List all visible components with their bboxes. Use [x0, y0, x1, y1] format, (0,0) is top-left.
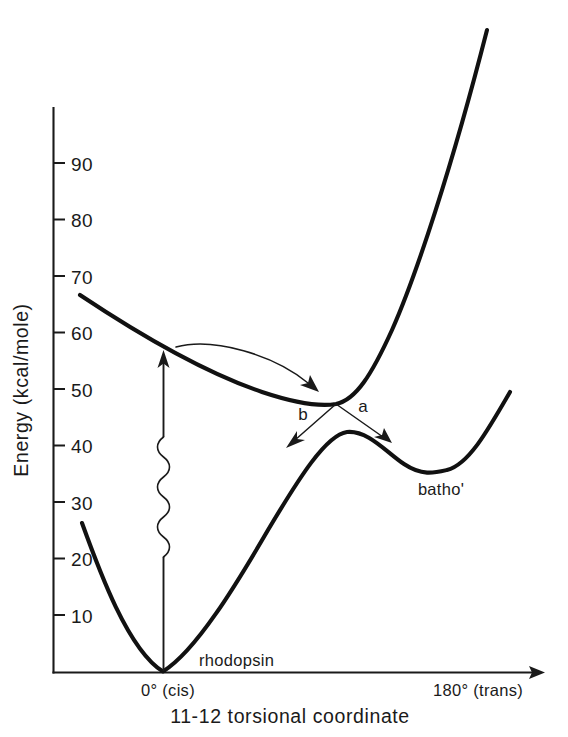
y-tick-label-70: 70 — [71, 267, 93, 288]
potential-energy-surface-diagram: 90 80 70 60 50 40 30 20 10 Energy (kcal/… — [0, 0, 568, 737]
x-tick-label-cis: 0° (cis) — [141, 681, 195, 699]
excited-state-curve — [80, 30, 487, 405]
rhodopsin-label: rhodopsin — [199, 651, 274, 669]
y-tick-label-60: 60 — [71, 323, 93, 344]
y-tick-labels: 90 80 70 60 50 40 30 20 10 — [71, 154, 93, 627]
y-tick-label-10: 10 — [71, 606, 93, 627]
photon-squiggle — [158, 437, 170, 557]
x-tick-label-trans: 180° (trans) — [433, 681, 523, 699]
axis-group — [54, 108, 546, 679]
x-axis-title: 11-12 torsional coordinate — [170, 705, 410, 727]
figure-root: 90 80 70 60 50 40 30 20 10 Energy (kcal/… — [0, 0, 568, 737]
y-tick-label-20: 20 — [71, 549, 93, 570]
y-tick-label-40: 40 — [71, 436, 93, 457]
relaxation-arrowhead — [300, 375, 319, 392]
y-tick-label-50: 50 — [71, 380, 93, 401]
y-tick-label-90: 90 — [71, 154, 93, 175]
branch-b-label: b — [298, 405, 307, 424]
vertical-excitation-arrow — [158, 350, 170, 671]
y-tick-label-80: 80 — [71, 210, 93, 231]
y-axis-ticks — [54, 163, 66, 615]
y-tick-label-30: 30 — [71, 493, 93, 514]
y-axis-title: Energy (kcal/mole) — [10, 303, 32, 476]
branch-a-label: a — [358, 397, 368, 416]
batho-prime-label: batho' — [418, 480, 464, 498]
